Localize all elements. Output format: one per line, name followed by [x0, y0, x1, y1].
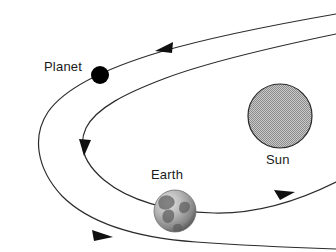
sun-disc: [248, 84, 312, 148]
arrow-outer-bottom-icon: [92, 230, 113, 241]
planet-label: Planet: [44, 60, 82, 73]
arrow-inner-left-icon: [79, 139, 91, 156]
sun-body: [248, 84, 312, 148]
arrow-inner-right-icon: [274, 190, 295, 200]
sun-label: Sun: [266, 153, 290, 166]
earth-body: [154, 190, 196, 232]
planet-disc: [91, 66, 109, 84]
arrow-outer-top-icon: [155, 42, 173, 53]
earth-label: Earth: [151, 168, 183, 181]
orbit-diagram: Planet Sun Earth: [0, 0, 336, 252]
orbit-canvas: [0, 0, 336, 252]
